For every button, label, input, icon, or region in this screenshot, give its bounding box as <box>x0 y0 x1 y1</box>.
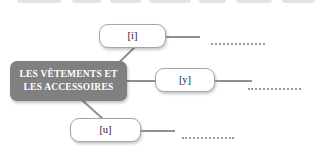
top-cutoff-chip <box>72 0 101 3</box>
top-cutoff-chip <box>17 0 61 3</box>
top-cutoff-chip <box>110 0 141 3</box>
central-topic-node[interactable]: LES VÊTEMENTS ET LES ACCESSOIRES <box>10 61 127 101</box>
top-cutoff-strip <box>0 0 325 5</box>
top-cutoff-chip <box>149 0 191 3</box>
branch-label-i: [i] <box>128 31 138 42</box>
answer-connector-u <box>141 130 175 132</box>
answer-blank-u[interactable] <box>182 135 234 139</box>
top-cutoff-chip <box>199 0 226 3</box>
branch-label-y: [y] <box>179 75 191 86</box>
branch-box-i[interactable]: [i] <box>99 24 166 48</box>
answer-connector-i <box>166 36 200 38</box>
top-cutoff-chip <box>282 0 315 3</box>
answer-blank-y[interactable] <box>248 86 301 90</box>
top-cutoff-chip <box>236 0 272 3</box>
answer-connector-y <box>215 80 252 82</box>
central-topic-line-1: LES VÊTEMENTS ET <box>19 68 117 81</box>
answer-blank-i[interactable] <box>211 41 265 45</box>
connector-center-to-y <box>126 80 157 82</box>
branch-box-y[interactable]: [y] <box>155 68 215 92</box>
mindmap-slide: LES VÊTEMENTS ET LES ACCESSOIRES [i] [y]… <box>0 0 325 158</box>
central-topic-line-2: LES ACCESSOIRES <box>24 81 114 94</box>
branch-box-u[interactable]: [u] <box>70 118 141 142</box>
branch-label-u: [u] <box>99 125 111 136</box>
